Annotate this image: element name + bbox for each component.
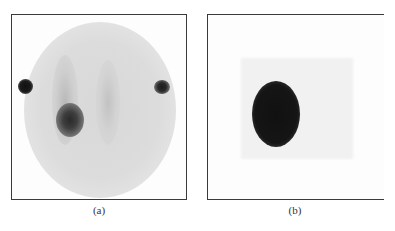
panel-b-image <box>207 14 384 200</box>
caption-a: (a) <box>79 204 119 216</box>
right-reference-marker <box>154 80 170 94</box>
hot-spot <box>56 103 84 137</box>
panel-a-image <box>11 14 187 200</box>
caption-b: (b) <box>275 204 315 216</box>
left-reference-marker <box>18 79 33 94</box>
right-uptake-stripe <box>96 60 120 145</box>
hot-spot <box>252 81 300 147</box>
